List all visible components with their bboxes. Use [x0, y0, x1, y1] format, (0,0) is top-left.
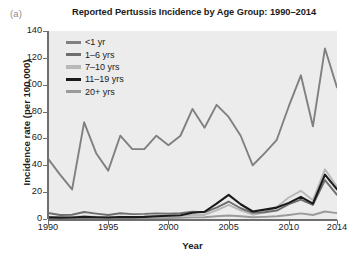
chart-figure: (a) Reported Pertussis Incidence by Age …: [0, 0, 363, 258]
legend-swatch-icon: [66, 53, 81, 56]
series-line: [48, 180, 337, 215]
legend-item[interactable]: <1 yr: [66, 36, 176, 48]
legend-swatch-icon: [66, 78, 81, 81]
legend-label: 1–6 yrs: [85, 50, 115, 60]
legend-item[interactable]: 11–19 yrs: [66, 73, 176, 85]
y-tick-label: 140: [18, 25, 42, 35]
legend-label: 7–10 yrs: [85, 62, 120, 72]
y-tick-label: 80: [18, 106, 42, 116]
x-tick-mark: [108, 220, 109, 225]
y-tick-mark: [43, 219, 47, 220]
y-tick-label: 40: [18, 159, 42, 169]
y-tick-label: 100: [18, 79, 42, 89]
x-axis-label: Year: [48, 240, 337, 251]
chart-legend: <1 yr1–6 yrs7–10 yrs11–19 yrs20+ yrs: [66, 36, 176, 98]
legend-swatch-icon: [66, 65, 81, 68]
legend-item[interactable]: 20+ yrs: [66, 86, 176, 98]
legend-item[interactable]: 1–6 yrs: [66, 48, 176, 60]
y-axis-ticks: 020406080100120140: [0, 0, 42, 258]
x-axis-line: [48, 219, 337, 221]
x-tick-mark: [337, 220, 338, 225]
legend-swatch-icon: [66, 90, 81, 93]
y-tick-label: 20: [18, 186, 42, 196]
legend-item[interactable]: 7–10 yrs: [66, 61, 176, 73]
x-tick-mark: [48, 220, 49, 225]
chart-title: Reported Pertussis Incidence by Age Grou…: [48, 7, 340, 17]
y-tick-label: 60: [18, 132, 42, 142]
legend-swatch-icon: [66, 41, 81, 44]
legend-label: 20+ yrs: [85, 87, 115, 97]
y-axis-line: [47, 31, 49, 219]
series-line: [48, 169, 337, 217]
x-tick-mark: [168, 220, 169, 225]
x-tick-mark: [229, 220, 230, 225]
y-tick-label: 120: [18, 52, 42, 62]
legend-label: <1 yr: [85, 37, 105, 47]
legend-label: 11–19 yrs: [85, 74, 124, 84]
x-tick-mark: [289, 220, 290, 225]
